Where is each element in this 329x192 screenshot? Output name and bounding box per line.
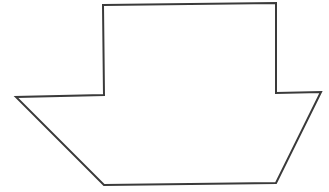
boat-shape-svg [0,0,329,192]
boat-outline [16,3,321,185]
diagram-canvas [0,0,329,192]
